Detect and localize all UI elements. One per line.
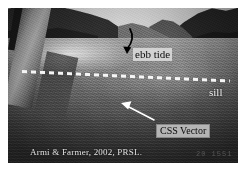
ebb-tide-arrow-icon — [123, 29, 132, 54]
ebb-tide-label: ebb tide — [133, 48, 172, 61]
sill-label: sill — [209, 87, 222, 98]
figure-container: ebb tide sill CSS Vector Armi & Farmer, … — [0, 0, 246, 172]
credit-text: Armi & Farmer, 2002, PRSL. — [30, 148, 142, 157]
css-vector-arrow-icon — [121, 101, 154, 120]
css-vector-label: CSS Vector — [156, 124, 210, 138]
timestamp-overlay: 20 1551 — [196, 151, 232, 158]
annotation-arrows-overlay — [8, 8, 238, 163]
photograph: ebb tide sill CSS Vector Armi & Farmer, … — [8, 8, 238, 163]
